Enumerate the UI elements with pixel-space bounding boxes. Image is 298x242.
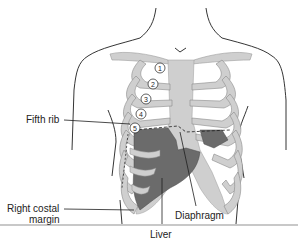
costal-margin-leader bbox=[64, 209, 134, 210]
label-liver: Liver bbox=[150, 229, 172, 240]
rib-number-2: 2 bbox=[151, 81, 155, 88]
label-diaphragm: Diaphragm bbox=[175, 210, 224, 221]
rib-number-3: 3 bbox=[144, 96, 148, 103]
rib-number-4: 4 bbox=[139, 111, 143, 118]
rib-number-1: 1 bbox=[158, 65, 162, 72]
rib-number-5: 5 bbox=[133, 125, 137, 132]
label-right-costal-margin-line1: Right costal bbox=[7, 203, 59, 214]
fifth-rib-leader bbox=[64, 120, 130, 124]
label-fifth-rib: Fifth rib bbox=[26, 114, 59, 125]
label-right-costal-margin-line2: margin bbox=[29, 214, 60, 225]
